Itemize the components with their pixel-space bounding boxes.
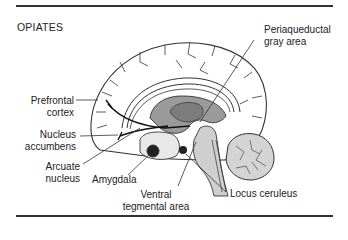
temporal-region — [140, 132, 179, 159]
label-amygdala: Amygdala — [92, 174, 136, 186]
label-arcuate-nucleus: Arcuate nucleus — [22, 161, 80, 185]
label-periaqueductal-gray-area: Periaqueductal gray area — [264, 24, 331, 48]
label-prefrontal-cortex: Prefrontal cortex — [16, 95, 74, 119]
locus-ceruleus-structure — [179, 146, 187, 154]
label-locus-ceruleus: Locus ceruleus — [230, 188, 297, 200]
label-ventral-tegmental-area: Ventral tegmental area — [116, 189, 196, 213]
label-nucleus-accumbens: Nucleus accumbens — [18, 129, 76, 153]
